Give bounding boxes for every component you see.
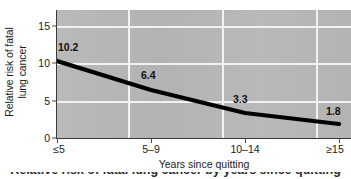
y-tick-label-10: 10 xyxy=(30,57,50,69)
x-tick-label-1: ≤5 xyxy=(53,143,65,155)
series-line-relative-risk xyxy=(57,10,351,138)
x-axis-tick-labels: ≤5 5–9 10–14 ≥15 xyxy=(0,143,351,157)
caption-strip: Relative risk of fatal lung cancer by ye… xyxy=(0,172,351,179)
point-label-1: 10.2 xyxy=(58,41,78,53)
x-tick-label-4: ≥15 xyxy=(326,143,343,155)
x-tick-label-3: 10–14 xyxy=(230,143,259,155)
figure-container: Relative risk of fatal lung cancer 15 10… xyxy=(0,0,351,179)
point-label-2: 6.4 xyxy=(141,69,156,81)
point-label-3: 3.3 xyxy=(233,93,248,105)
y-tick-label-5: 5 xyxy=(30,95,50,107)
plot-area: 10.2 6.4 3.3 1.8 xyxy=(57,10,351,138)
caption-text: Relative risk of fatal lung cancer by ye… xyxy=(0,172,351,177)
y-axis-title-text: Relative risk of fatal lung cancer xyxy=(3,27,28,116)
y-axis-title-line-2: lung cancer xyxy=(15,27,28,116)
x-tick-label-2: 5–9 xyxy=(142,143,160,155)
x-axis-title: Years since quitting xyxy=(57,158,351,170)
y-axis-title: Relative risk of fatal lung cancer xyxy=(0,8,30,136)
point-label-4: 1.8 xyxy=(326,105,341,117)
y-axis-title-line-1: Relative risk of fatal xyxy=(3,27,16,116)
series-polyline xyxy=(57,61,339,124)
y-tick-label-15: 15 xyxy=(30,20,50,32)
